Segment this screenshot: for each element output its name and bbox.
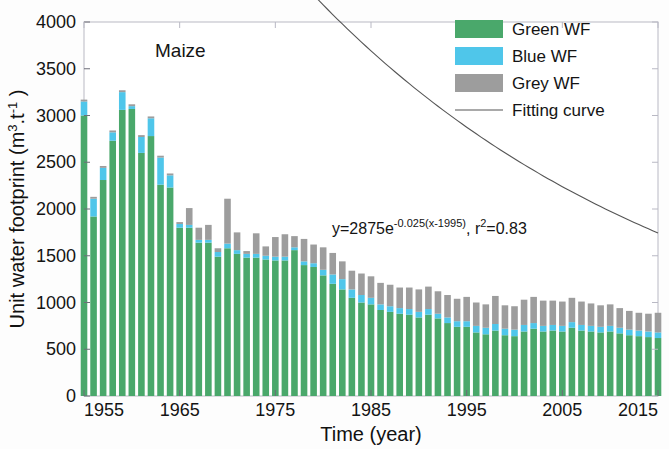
bar-segment-green-wf	[511, 336, 518, 396]
bar-segment-blue-wf	[138, 137, 145, 153]
bar-segment-blue-wf	[549, 325, 556, 331]
bar-segment-green-wf	[253, 258, 260, 396]
bar-segment-grey-wf	[483, 304, 490, 327]
bar-segment-grey-wf	[425, 287, 432, 309]
bar-segment-blue-wf	[406, 309, 413, 315]
bar-segment-grey-wf	[215, 248, 222, 252]
bar-segment-blue-wf	[607, 326, 614, 332]
bar-segment-grey-wf	[473, 303, 480, 326]
bar-segment-green-wf	[176, 228, 183, 396]
bar-segment-blue-wf	[511, 330, 518, 337]
bar-segment-green-wf	[234, 254, 241, 396]
bar-segment-blue-wf	[435, 314, 442, 319]
bar-segment-blue-wf	[119, 92, 126, 110]
bar-segment-blue-wf	[176, 224, 183, 228]
bar-segment-grey-wf	[234, 232, 241, 250]
bar-segment-green-wf	[454, 327, 461, 396]
bar-segment-grey-wf	[444, 295, 451, 317]
bar-segment-grey-wf	[655, 313, 662, 333]
bar-segment-blue-wf	[540, 326, 547, 332]
bar-segment-grey-wf	[569, 298, 576, 322]
bar-segment-green-wf	[645, 337, 652, 396]
bar-segment-green-wf	[262, 259, 269, 396]
legend-item-blue-wf[interactable]: Blue WF	[455, 47, 577, 66]
bar-group	[578, 302, 585, 396]
y-axis-tick-label: 3000	[36, 106, 76, 126]
legend-label: Green WF	[512, 20, 590, 39]
bar-segment-blue-wf	[377, 304, 384, 310]
bar-segment-blue-wf	[81, 101, 88, 115]
bar-group	[521, 300, 528, 396]
bar-segment-green-wf	[148, 136, 155, 396]
bar-segment-green-wf	[90, 216, 97, 396]
bar-group	[234, 232, 241, 396]
bar-segment-grey-wf	[196, 228, 203, 240]
bar-group	[588, 303, 595, 396]
bar-segment-grey-wf	[186, 208, 193, 225]
bar-segment-grey-wf	[291, 236, 298, 247]
bar-segment-green-wf	[636, 336, 643, 396]
y-axis-tick-label: 2500	[36, 152, 76, 172]
eq-part-1: y=2875e	[332, 220, 394, 237]
legend-item-green-wf[interactable]: Green WF	[455, 20, 590, 39]
bar-segment-blue-wf	[205, 240, 212, 243]
bar-segment-blue-wf	[100, 168, 107, 180]
bar-group	[569, 298, 576, 396]
bar-group	[176, 222, 183, 396]
bar-segment-blue-wf	[157, 158, 164, 185]
y-axis-title-suffix: )	[6, 90, 28, 102]
bar-group	[358, 274, 365, 396]
legend-item-grey-wf[interactable]: Grey WF	[455, 74, 580, 93]
y-axis-title-mid: .t	[6, 113, 28, 125]
bar-segment-blue-wf	[645, 331, 652, 337]
bar-segment-grey-wf	[368, 276, 375, 298]
bar-segment-grey-wf	[100, 166, 107, 168]
bar-segment-green-wf	[588, 331, 595, 396]
bar-segment-grey-wf	[636, 313, 643, 331]
bar-segment-green-wf	[492, 331, 499, 396]
bar-segment-grey-wf	[358, 274, 365, 296]
bar-group	[454, 299, 461, 396]
x-axis-tick-label: 2015	[618, 400, 658, 420]
bar-group	[597, 305, 604, 396]
bar-group	[167, 173, 174, 396]
bar-segment-green-wf	[272, 260, 279, 396]
y-axis-title-sup-3: 3	[5, 124, 20, 131]
eq-exponent: -0.025(x-1995)	[394, 217, 466, 229]
bar-segment-grey-wf	[176, 222, 183, 224]
bar-segment-blue-wf	[559, 326, 566, 332]
bar-group	[444, 295, 451, 396]
bar-group	[329, 253, 336, 396]
bar-group	[157, 156, 164, 396]
bar-segment-grey-wf	[138, 135, 145, 137]
bar-segment-green-wf	[559, 331, 566, 396]
y-axis-tick-label: 3500	[36, 59, 76, 79]
bar-group	[483, 304, 490, 396]
bar-segment-blue-wf	[396, 308, 403, 314]
bar-group	[406, 288, 413, 396]
bar-segment-blue-wf	[301, 261, 308, 265]
bar-group	[253, 233, 260, 396]
bar-segment-green-wf	[186, 228, 193, 396]
x-axis-tick-label: 1965	[160, 400, 200, 420]
bar-group	[205, 225, 212, 396]
bar-group	[129, 104, 136, 396]
legend-swatch-icon	[455, 74, 503, 92]
bar-group	[645, 314, 652, 396]
bar-segment-green-wf	[578, 331, 585, 396]
bar-group	[196, 228, 203, 396]
bar-segment-blue-wf	[444, 317, 451, 323]
bar-group	[224, 199, 231, 396]
bar-group	[636, 313, 643, 396]
bar-segment-green-wf	[416, 317, 423, 396]
bar-group	[301, 239, 308, 396]
eq-part-2: , r	[466, 220, 481, 237]
bar-segment-green-wf	[444, 323, 451, 396]
bar-segment-grey-wf	[416, 289, 423, 311]
bar-group	[262, 246, 269, 396]
bar-group	[655, 313, 662, 396]
bar-segment-grey-wf	[224, 199, 231, 244]
bar-segment-green-wf	[377, 310, 384, 396]
bar-segment-green-wf	[109, 141, 116, 396]
bar-segment-green-wf	[540, 331, 547, 396]
